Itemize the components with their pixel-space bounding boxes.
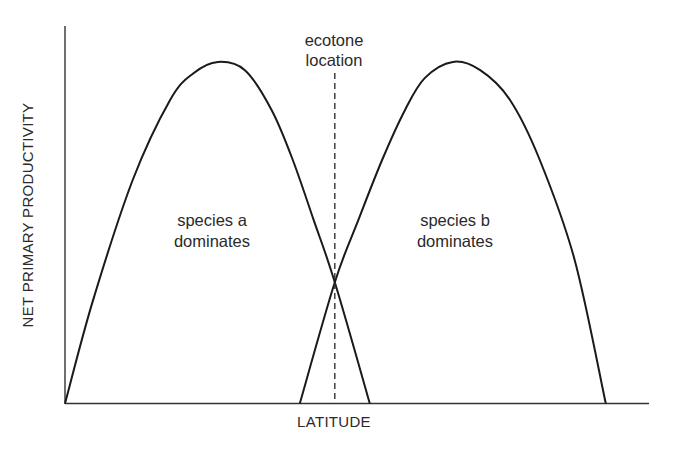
- species-a-label-line2: dominates: [174, 232, 250, 250]
- ecotone-label-line2: location: [306, 51, 363, 69]
- species-b-label-line2: dominates: [417, 232, 493, 250]
- ecotone-label-line1: ecotone: [305, 31, 364, 49]
- series-layer: [65, 62, 606, 404]
- y-axis-label: NET PRIMARY PRODUCTIVITY: [19, 103, 36, 328]
- x-axis-label: LATITUDE: [297, 413, 371, 430]
- chart: LATITUDE NET PRIMARY PRODUCTIVITY specie…: [0, 0, 677, 449]
- species-a-label-line1: species a: [177, 211, 248, 229]
- species-b-label-line1: species b: [420, 211, 490, 229]
